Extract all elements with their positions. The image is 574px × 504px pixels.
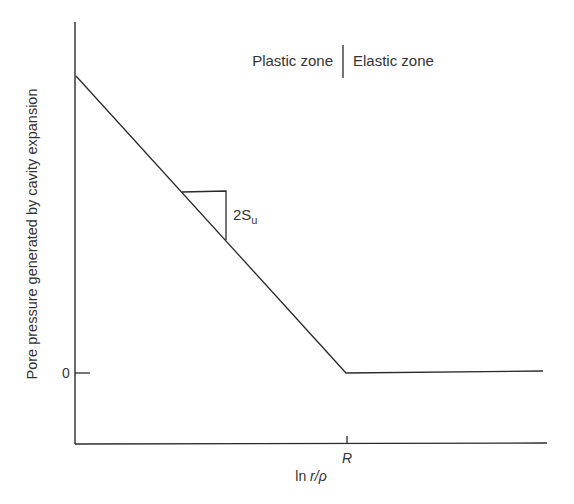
x-axis — [75, 443, 547, 444]
pore-pressure-curve — [76, 76, 543, 373]
slope-label: 2Su — [233, 206, 257, 226]
zero-label: 0 — [62, 365, 70, 381]
r-label: R — [342, 450, 352, 466]
x-axis-label: ln r/ρ — [295, 468, 326, 484]
y-axis-label: Pore pressure generated by cavity expans… — [24, 89, 40, 380]
elastic-zone-label: Elastic zone — [353, 52, 434, 69]
plastic-zone-label: Plastic zone — [252, 52, 333, 69]
slope-triangle — [182, 191, 226, 240]
pore-pressure-diagram: Pore pressure generated by cavity expans… — [0, 0, 574, 504]
